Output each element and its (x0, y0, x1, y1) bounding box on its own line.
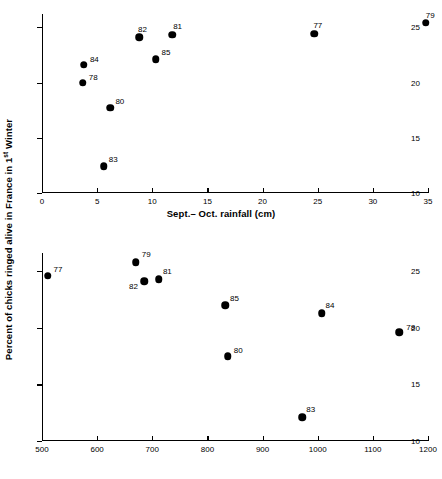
data-point-label-84: 84 (90, 55, 99, 64)
bottom-x-tick (318, 436, 319, 441)
top-x-tick-label: 30 (368, 197, 377, 206)
top-x-tick-label: 5 (95, 197, 99, 206)
data-point-label-79: 79 (142, 250, 151, 259)
top-x-tick (263, 188, 264, 193)
bottom-x-tick (152, 436, 153, 441)
top-scatter-panel: 05101520253035 10152025 8478808382858177… (0, 0, 442, 228)
top-x-tick (207, 188, 208, 193)
bottom-x-tick (373, 436, 374, 441)
bottom-x-tick (263, 436, 264, 441)
data-point-label-77: 77 (313, 21, 322, 30)
bottom-y-tick (37, 271, 42, 272)
bottom-x-tick-label: 700 (146, 445, 159, 454)
data-point-label-82: 82 (129, 282, 138, 291)
data-point-79 (132, 258, 140, 266)
data-point-label-85: 85 (230, 294, 239, 303)
top-x-tick (42, 188, 43, 193)
data-point-77 (44, 272, 52, 280)
top-x-tick-label: 35 (424, 197, 433, 206)
top-y-tick (37, 193, 42, 194)
data-point-label-78: 78 (89, 73, 98, 82)
bottom-x-tick-label: 600 (90, 445, 103, 454)
data-point-label-81: 81 (163, 267, 172, 276)
top-x-tick-label: 15 (203, 197, 212, 206)
top-y-tick-label: 20 (411, 78, 420, 87)
bottom-x-tick-label: 800 (201, 445, 214, 454)
data-point-label-80: 80 (234, 346, 243, 355)
bottom-y-tick (37, 384, 42, 385)
bottom-y-tick (37, 441, 42, 442)
bottom-y-tick-label: 15 (411, 380, 420, 389)
top-x-tick (318, 188, 319, 193)
data-point-81 (155, 275, 163, 283)
top-x-tick (152, 188, 153, 193)
data-point-79 (422, 19, 430, 27)
top-x-tick-label: 0 (40, 197, 44, 206)
top-x-tick (373, 188, 374, 193)
bottom-scatter-panel: 500600700800900100011001200 10152025 777… (0, 228, 442, 479)
data-point-85 (152, 56, 160, 64)
data-point-85 (221, 301, 229, 309)
bottom-y-tick (37, 328, 42, 329)
bottom-x-tick-label: 1200 (419, 445, 437, 454)
data-point-84 (80, 61, 88, 69)
bottom-x-tick (97, 436, 98, 441)
bottom-x-tick-label: 1000 (309, 445, 327, 454)
top-x-tick (97, 188, 98, 193)
data-point-78 (79, 79, 87, 87)
top-x-tick-label: 25 (313, 197, 322, 206)
data-point-80 (224, 352, 232, 360)
top-x-axis-title: Sept.– Oct. rainfall (cm) (0, 208, 442, 219)
top-y-tick-label: 10 (411, 189, 420, 198)
top-y-tick (37, 83, 42, 84)
data-point-83 (299, 413, 307, 421)
data-point-78 (396, 329, 404, 337)
bottom-y-axis-line (42, 253, 43, 441)
bottom-x-tick-label: 900 (256, 445, 269, 454)
data-point-82 (135, 33, 143, 41)
top-x-tick-label: 10 (148, 197, 157, 206)
top-y-tick-label: 25 (411, 23, 420, 32)
data-point-label-83: 83 (109, 155, 118, 164)
top-x-axis-line (42, 192, 428, 193)
data-point-82 (140, 278, 148, 286)
bottom-y-tick-label: 10 (411, 437, 420, 446)
top-y-tick (37, 138, 42, 139)
data-point-label-85: 85 (162, 48, 171, 57)
top-x-tick (428, 188, 429, 193)
data-point-81 (168, 31, 176, 39)
bottom-x-tick (42, 436, 43, 441)
data-point-label-83: 83 (306, 405, 315, 414)
top-x-tick-label: 20 (258, 197, 267, 206)
top-y-axis-line (42, 14, 43, 193)
bottom-plot-area: 500600700800900100011001200 10152025 777… (42, 253, 428, 441)
data-point-84 (318, 309, 326, 317)
bottom-x-axis-line (42, 440, 428, 441)
data-point-label-79: 79 (426, 11, 435, 20)
top-y-tick-label: 15 (411, 133, 420, 142)
data-point-80 (107, 104, 115, 112)
figure-container: Percent of chicks ringed alive in France… (0, 0, 442, 479)
bottom-y-tick-label: 25 (411, 267, 420, 276)
bottom-x-tick (428, 436, 429, 441)
data-point-label-80: 80 (115, 97, 124, 106)
data-point-label-82: 82 (138, 25, 147, 34)
top-y-tick (37, 27, 42, 28)
bottom-x-tick (207, 436, 208, 441)
data-point-label-77: 77 (54, 265, 63, 274)
data-point-83 (100, 163, 108, 171)
top-plot-area: 05101520253035 10152025 8478808382858177… (42, 14, 428, 193)
data-point-label-78: 78 (406, 323, 415, 332)
data-point-label-81: 81 (173, 22, 182, 31)
data-point-77 (311, 30, 319, 38)
bottom-x-tick-label: 1100 (364, 445, 381, 454)
bottom-x-tick-label: 500 (35, 445, 48, 454)
data-point-label-84: 84 (326, 301, 335, 310)
